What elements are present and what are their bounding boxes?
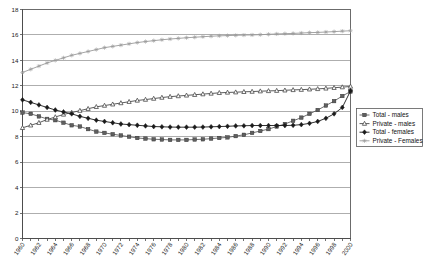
series-marker <box>144 137 148 141</box>
series-marker <box>184 36 188 40</box>
series-marker <box>94 47 98 51</box>
series-marker <box>136 136 140 140</box>
series-marker <box>217 91 221 95</box>
series-marker <box>29 123 33 127</box>
x-tick-label: 1974 <box>127 241 141 257</box>
series-marker <box>111 120 115 125</box>
series-marker <box>225 90 229 94</box>
x-tick-label: 1972 <box>111 241 125 257</box>
x-tick-label: 1988 <box>242 241 256 257</box>
series-marker <box>348 84 352 88</box>
y-tick-label: 0 <box>15 235 19 242</box>
series-marker <box>143 97 147 101</box>
series-marker <box>78 114 82 119</box>
series-marker <box>291 31 295 35</box>
series-marker <box>168 94 172 98</box>
x-tick-label: 1978 <box>160 241 174 257</box>
series-3 <box>20 29 352 75</box>
series-marker <box>152 124 156 129</box>
series-marker <box>258 123 262 128</box>
series-marker <box>316 108 320 112</box>
series-marker <box>193 92 197 96</box>
series-marker <box>29 112 33 116</box>
series-marker <box>127 42 131 46</box>
series-marker <box>341 94 345 98</box>
series-marker <box>37 103 41 108</box>
series-marker <box>291 88 295 92</box>
series-marker <box>242 123 246 128</box>
series-marker <box>176 94 180 98</box>
series-marker <box>259 129 263 133</box>
series-marker <box>86 127 90 131</box>
series-marker <box>258 33 262 37</box>
series-marker <box>348 29 352 33</box>
x-tick-label: 1962 <box>29 241 43 257</box>
y-tick-label: 2 <box>15 209 19 216</box>
series-marker <box>340 29 344 33</box>
series-marker <box>226 124 230 129</box>
series-marker <box>299 122 303 127</box>
series-marker <box>283 88 287 92</box>
series-marker <box>250 123 254 128</box>
y-tick-label: 12 <box>12 82 19 89</box>
series-marker <box>258 89 262 93</box>
series-marker <box>62 121 66 125</box>
series-marker <box>201 35 205 39</box>
x-tick-label: 1984 <box>209 241 223 257</box>
series-marker <box>209 34 213 38</box>
series-marker <box>78 108 82 112</box>
series-marker <box>225 33 229 37</box>
series-marker <box>111 132 115 136</box>
x-tick-label: 1964 <box>45 241 59 257</box>
line-chart: 024681012141618 196019621964196619681970… <box>0 0 427 269</box>
series-marker <box>324 104 328 108</box>
series-0 <box>21 90 353 142</box>
series-marker <box>53 115 57 119</box>
series-marker <box>78 125 82 129</box>
x-tick-label: 1990 <box>258 241 272 257</box>
series-marker <box>250 33 254 37</box>
series-marker <box>184 93 188 97</box>
y-tick-label: 14 <box>12 57 19 64</box>
series-marker <box>160 95 164 99</box>
series-marker <box>324 30 328 34</box>
series-marker <box>340 85 344 89</box>
series-marker <box>37 115 41 119</box>
series-marker <box>250 89 254 93</box>
series-marker <box>308 121 312 126</box>
series-marker <box>135 40 139 44</box>
series-marker <box>275 32 279 36</box>
x-tick-label: 1982 <box>193 241 207 257</box>
series-marker <box>152 137 156 141</box>
series-marker <box>20 126 24 130</box>
x-tick-label: 1992 <box>275 241 289 257</box>
series-marker <box>160 124 164 129</box>
series-marker <box>53 58 57 62</box>
series-marker <box>119 43 123 47</box>
legend-label: Private - males <box>373 120 416 127</box>
series-marker <box>299 31 303 35</box>
series-marker <box>193 125 197 130</box>
series-marker <box>152 39 156 43</box>
series-marker <box>86 106 90 110</box>
series-marker <box>201 92 205 96</box>
series-marker <box>103 131 107 135</box>
series-marker <box>70 53 74 57</box>
series-marker <box>94 118 98 123</box>
series-marker <box>29 67 33 71</box>
x-tick-label: 1986 <box>225 241 239 257</box>
series-marker <box>217 124 221 129</box>
series-marker <box>226 136 230 140</box>
series-marker <box>324 116 328 121</box>
x-tick-label: 1994 <box>291 241 305 257</box>
series-marker <box>234 90 238 94</box>
x-tick-label: 1966 <box>61 241 75 257</box>
chart-legend[interactable]: Total - malesPrivate - malesTotal - fema… <box>357 109 423 147</box>
x-tick-label: 2000 <box>340 241 354 257</box>
y-axis-labels: 024681012141618 <box>12 6 23 242</box>
x-tick-label: 1976 <box>143 241 157 257</box>
series-marker <box>185 138 189 142</box>
series-marker <box>266 89 270 93</box>
series-1 <box>20 84 352 129</box>
y-tick-label: 16 <box>12 31 19 38</box>
